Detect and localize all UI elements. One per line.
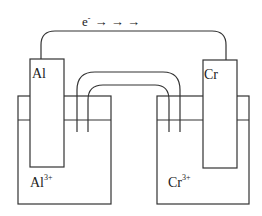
electron-flow-label: e-→ → → [82,14,140,29]
salt-bridge-outer [77,72,180,132]
al-ion-label: Al3+ [30,173,53,190]
cr-ion-label: Cr3+ [168,173,191,190]
external-wire [41,31,226,60]
galvanic-cell-diagram: e-→ → → Al Cr Al3+ Cr3+ [0,0,262,216]
cr-electrode-label: Cr [204,67,218,82]
al-electrode-label: Al [32,66,46,81]
